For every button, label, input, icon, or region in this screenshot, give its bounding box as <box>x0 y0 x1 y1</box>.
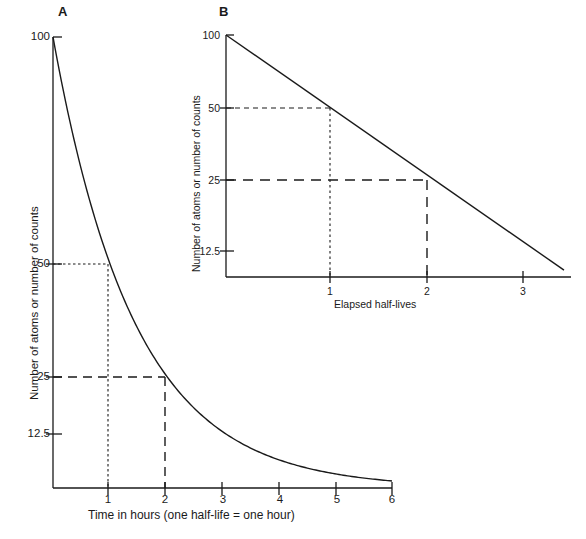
panel-a-axes <box>46 37 392 495</box>
panel-a-guides <box>53 264 165 488</box>
decay-figure: A Number of atoms or number of counts Ti… <box>0 0 586 539</box>
panel-b-decay-line <box>226 35 564 270</box>
panel-b-axes <box>220 35 571 283</box>
panel-a-decay-curve <box>53 37 392 481</box>
plot-canvas <box>0 0 586 539</box>
panel-b-guides <box>226 108 427 277</box>
